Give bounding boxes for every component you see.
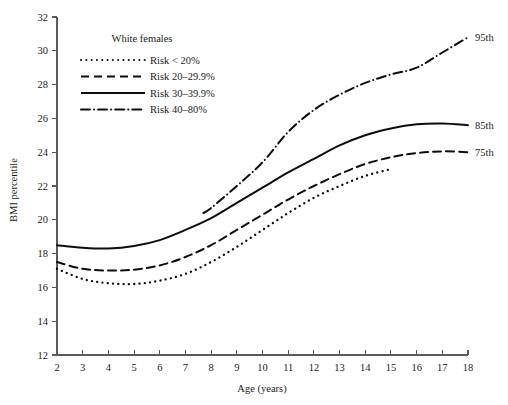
y-axis-title: BMI percentile <box>8 158 19 222</box>
y-tick-label: 26 <box>38 113 49 124</box>
axis-spines <box>57 17 468 355</box>
x-tick-label: 4 <box>106 362 112 373</box>
endpoint-label: 75th <box>475 147 494 158</box>
legend-label: Risk 20–29.9% <box>150 71 215 82</box>
x-tick-label: 7 <box>183 362 188 373</box>
endpoint-label: 95th <box>475 32 494 43</box>
chart-figure: 1214161820222426283032 23456789101112131… <box>0 0 508 405</box>
series-line-2 <box>57 151 468 270</box>
series-endpoint-labels: 95th85th75th <box>475 32 494 158</box>
y-axis-tick-labels: 1214161820222426283032 <box>38 12 49 361</box>
y-tick-label: 32 <box>38 12 49 23</box>
x-axis-ticks <box>57 350 468 355</box>
y-tick-label: 30 <box>38 45 49 56</box>
y-axis-ticks <box>52 17 57 355</box>
legend-label: Risk 30–39.9% <box>150 88 215 99</box>
y-tick-label: 16 <box>38 282 49 293</box>
data-series-group <box>57 37 468 284</box>
x-tick-label: 11 <box>283 362 293 373</box>
x-tick-label: 8 <box>209 362 214 373</box>
x-tick-label: 9 <box>234 362 239 373</box>
x-tick-label: 2 <box>54 362 59 373</box>
x-tick-label: 16 <box>411 362 422 373</box>
legend-items: Risk < 20%Risk 20–29.9%Risk 30–39.9%Risk… <box>81 55 215 116</box>
chart-legend: White females Risk < 20%Risk 20–29.9%Ris… <box>81 33 215 115</box>
x-tick-label: 15 <box>386 362 397 373</box>
x-tick-label: 12 <box>309 362 320 373</box>
legend-label: Risk < 20% <box>150 55 200 66</box>
x-tick-label: 13 <box>334 362 345 373</box>
bmi-percentile-line-chart: 1214161820222426283032 23456789101112131… <box>0 0 508 405</box>
y-tick-label: 18 <box>38 248 49 259</box>
x-tick-label: 5 <box>131 362 136 373</box>
series-line-1 <box>57 169 391 284</box>
y-tick-label: 20 <box>38 214 49 225</box>
legend-label: Risk 40–80% <box>150 104 207 115</box>
y-tick-label: 14 <box>38 316 49 327</box>
series-line-3 <box>57 123 468 248</box>
x-axis-tick-labels: 23456789101112131415161718 <box>54 362 473 373</box>
x-axis-title: Age (years) <box>237 383 287 395</box>
x-tick-label: 3 <box>80 362 85 373</box>
series-line-4 <box>203 37 468 213</box>
x-tick-label: 6 <box>157 362 162 373</box>
x-tick-label: 14 <box>360 362 371 373</box>
endpoint-label: 85th <box>475 120 494 131</box>
x-tick-label: 18 <box>463 362 474 373</box>
y-tick-label: 22 <box>38 181 49 192</box>
y-tick-label: 24 <box>38 147 49 158</box>
x-tick-label: 17 <box>437 362 448 373</box>
x-tick-label: 10 <box>257 362 268 373</box>
legend-title: White females <box>112 33 173 44</box>
y-tick-label: 12 <box>38 350 49 361</box>
y-tick-label: 28 <box>38 79 49 90</box>
